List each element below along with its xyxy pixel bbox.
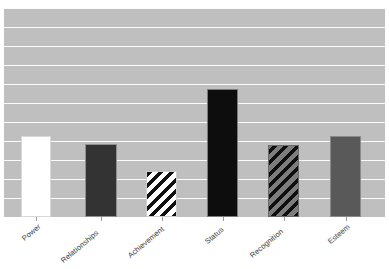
bar-relationships[interactable]: [85, 144, 117, 217]
bar-achievement[interactable]: [146, 171, 177, 217]
bar-chart-figure: PowerRelationshipsAchievementStatusRecog…: [0, 0, 389, 269]
bar-power[interactable]: [21, 136, 51, 217]
x-axis-labels-group: PowerRelationshipsAchievementStatusRecog…: [0, 217, 389, 269]
x-axis-label-achievement: Achievement: [126, 224, 166, 259]
bar-esteem[interactable]: [330, 136, 361, 217]
bar-status[interactable]: [207, 89, 238, 217]
x-axis-label-recognition: Recognition: [248, 226, 285, 259]
x-axis-tick: [223, 217, 224, 221]
x-axis-tick: [101, 217, 102, 221]
x-axis-tick: [284, 217, 285, 221]
x-axis-label-esteem: Esteem: [326, 222, 352, 246]
plot-area: [4, 8, 385, 217]
bars-group: [4, 8, 385, 217]
chart-title: [0, 0, 389, 2]
x-axis-tick: [346, 217, 347, 221]
x-axis-tick: [36, 217, 37, 221]
x-axis-label-relationships: Relationships: [59, 228, 100, 265]
x-axis-label-status: Status: [203, 225, 226, 246]
x-axis-label-power: Power: [20, 222, 42, 243]
x-axis-tick: [162, 217, 163, 221]
bar-recognition[interactable]: [268, 145, 299, 217]
